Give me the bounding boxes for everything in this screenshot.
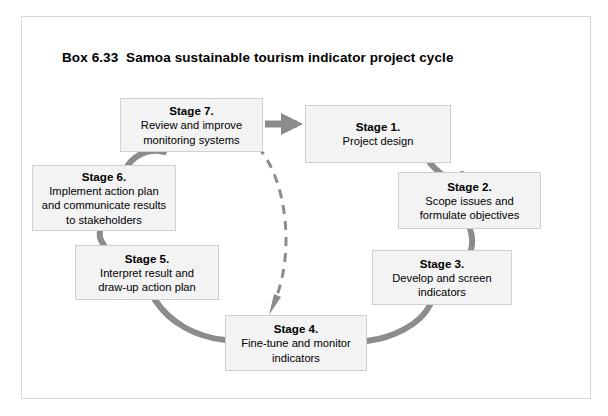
stage-box-stage-2[interactable]: Stage 2. Scope issues and formulate obje… [398,172,541,229]
stage-title: Stage 5. [125,251,169,266]
stage-title: Stage 1. [356,119,400,134]
stage-description: Develop and screen indicators [392,271,492,300]
stage-title: Stage 6. [82,169,126,184]
stage-title: Stage 2. [447,179,491,194]
stage-description: Review and improve monitoring systems [141,118,242,147]
stage-box-stage-7[interactable]: Stage 7. Review and improve monitoring s… [120,98,263,152]
stage-description: Interpret result and draw-up action plan [98,266,196,295]
page-root: Box 6.33 Samoa sustainable tourism indic… [0,0,608,416]
stage-title: Stage 3. [420,256,464,271]
stage-title: Stage 4. [274,321,318,336]
stage-box-stage-6[interactable]: Stage 6. Implement action plan and commu… [32,165,176,231]
stage-box-stage-5[interactable]: Stage 5. Interpret result and draw-up ac… [75,245,219,300]
stage-description: Project design [343,134,414,149]
stage-box-stage-4[interactable]: Stage 4. Fine-tune and monitor indicator… [225,315,367,371]
stage-description: Scope issues and formulate objectives [420,194,520,223]
stage-title: Stage 7. [169,103,213,118]
stage-box-stage-3[interactable]: Stage 3. Develop and screen indicators [372,250,512,305]
page-title: Box 6.33 Samoa sustainable tourism indic… [62,50,454,65]
stage-description: Implement action plan and communicate re… [42,184,166,228]
stage-description: Fine-tune and monitor indicators [241,336,350,365]
stage-box-stage-1[interactable]: Stage 1. Project design [305,105,451,163]
